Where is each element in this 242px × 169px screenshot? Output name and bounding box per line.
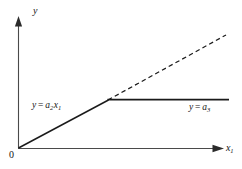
y-axis-label: y [33,6,37,16]
linear-equation-label: y=a2x1 [32,101,62,111]
extrapolation-dashed-line [108,35,226,100]
saturation-eq-coefficient-subscript: 3 [207,106,211,113]
y-axis-arrowhead [15,16,22,27]
linear-eq-lhs: y [32,100,37,110]
x-axis-arrowhead [213,145,225,153]
figure-container: y x1 0 y=a2x1 y=a3 [0,0,242,169]
saturation-eq-lhs: y [189,102,194,112]
saturation-equation-label: y=a3 [189,103,211,113]
x-axis-label-subscript: 1 [230,147,233,154]
saturation-eq-operator: = [194,102,203,112]
x-axis-label: x1 [226,143,234,153]
origin-label: 0 [9,150,14,160]
linear-eq-operator: = [37,100,46,110]
linear-eq-variable-subscript: 1 [58,104,62,111]
plot-canvas [0,0,242,169]
linear-eq-coefficient-subscript: 2 [50,104,54,111]
